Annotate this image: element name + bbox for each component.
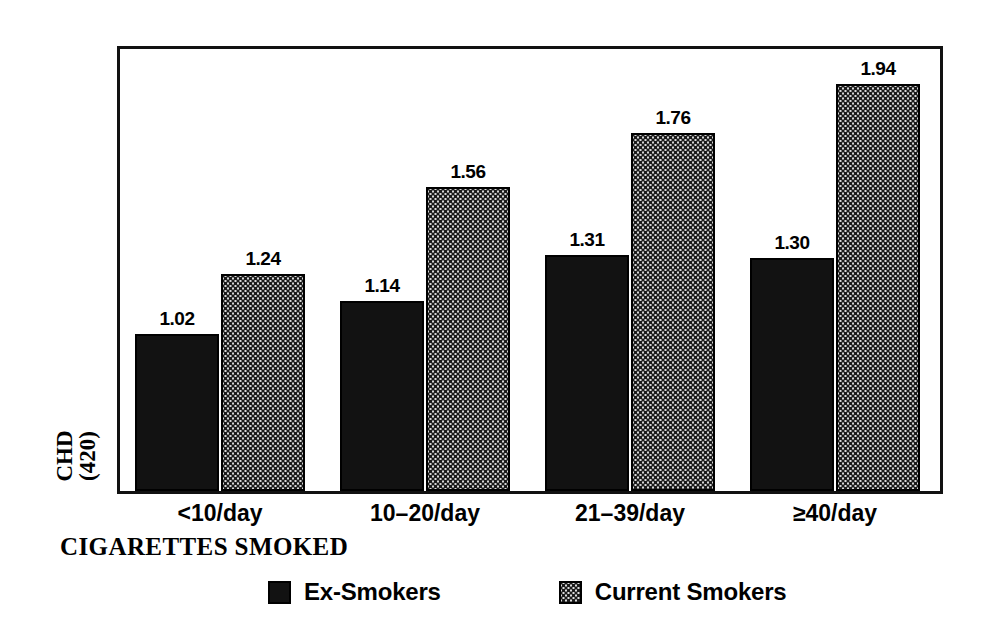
chart-page: { "chart_data": { "type": "bar", "title"… <box>0 0 991 643</box>
chart-legend: Ex-Smokers Current Smokers <box>268 578 786 606</box>
value-label-ex-smokers-2: 1.31 <box>570 229 605 251</box>
x-axis-title: CIGARETTES SMOKED <box>60 533 348 561</box>
y-axis-title: CHD (420) <box>28 408 124 504</box>
category-label-2: 21–39/day <box>575 500 685 527</box>
value-label-ex-smokers-1: 1.14 <box>365 275 400 297</box>
bar-current-smokers-1 <box>426 187 510 491</box>
y-axis-title-line-2: (420) <box>76 430 99 481</box>
dotted-square-icon <box>559 581 582 604</box>
value-label-current-smokers-1: 1.56 <box>451 161 486 183</box>
value-label-current-smokers-2: 1.76 <box>656 107 691 129</box>
y-axis-title-line-1: CHD <box>53 430 76 481</box>
bar-ex-smokers-1 <box>340 301 424 491</box>
legend-item-ex-smokers: Ex-Smokers <box>268 578 441 606</box>
bar-current-smokers-0 <box>221 274 305 491</box>
bar-ex-smokers-2 <box>545 255 629 491</box>
category-label-3: ≥40/day <box>793 500 877 527</box>
plot-frame <box>117 46 943 494</box>
value-label-ex-smokers-0: 1.02 <box>160 308 195 330</box>
plot-area <box>120 49 940 491</box>
black-square-icon <box>268 581 291 604</box>
legend-label-current-smokers: Current Smokers <box>595 578 787 606</box>
bar-current-smokers-3 <box>836 84 920 491</box>
bar-ex-smokers-3 <box>750 258 834 491</box>
value-label-ex-smokers-3: 1.30 <box>775 232 810 254</box>
category-label-1: 10–20/day <box>370 500 480 527</box>
bar-ex-smokers-0 <box>135 334 219 491</box>
legend-item-current-smokers: Current Smokers <box>559 578 787 606</box>
value-label-current-smokers-0: 1.24 <box>246 248 281 270</box>
category-label-0: <10/day <box>177 500 262 527</box>
bar-current-smokers-2 <box>631 133 715 491</box>
legend-label-ex-smokers: Ex-Smokers <box>304 578 441 606</box>
value-label-current-smokers-3: 1.94 <box>861 58 896 80</box>
